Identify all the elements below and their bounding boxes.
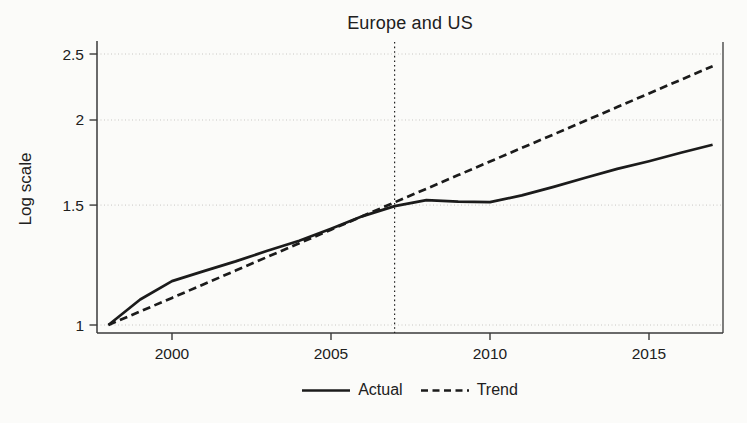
trend-line-swatch-icon [421, 387, 469, 394]
chart-title: Europe and US [97, 13, 723, 34]
x-tick-label-2000: 2000 [155, 345, 190, 362]
series-line-trend [108, 66, 712, 325]
actual-line-swatch-icon [302, 387, 350, 394]
x-tick-label-2010: 2010 [473, 345, 508, 362]
legend-item-actual: Actual [302, 381, 402, 399]
legend-item-trend: Trend [421, 381, 518, 399]
plot-area: 11.522.52000200520102015 [0, 0, 747, 423]
y-tick-label-1: 1 [75, 317, 84, 334]
legend-label-actual: Actual [358, 381, 402, 399]
series-line-actual [108, 145, 712, 325]
x-tick-label-2005: 2005 [314, 345, 348, 362]
y-tick-label-2.5: 2.5 [62, 46, 84, 63]
y-tick-label-2: 2 [75, 111, 84, 128]
legend: Actual Trend [97, 376, 723, 404]
y-tick-label-1.5: 1.5 [62, 197, 84, 214]
legend-label-trend: Trend [477, 381, 518, 399]
chart-figure: 11.522.52000200520102015 Europe and US L… [0, 0, 747, 423]
y-axis-label: Log scale [16, 153, 36, 226]
x-tick-label-2015: 2015 [632, 345, 666, 362]
